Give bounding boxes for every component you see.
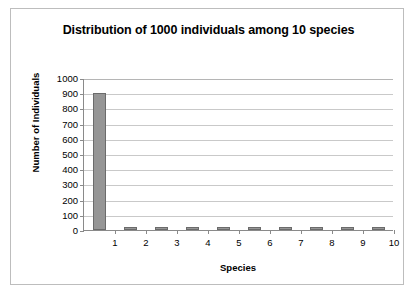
y-axis-tick-label: 200 — [44, 196, 78, 206]
y-axis-tick — [80, 109, 84, 110]
y-axis-tick-label: 0 — [44, 226, 78, 236]
x-axis-tick-label: 2 — [143, 237, 148, 248]
y-axis-tick-label: 100 — [44, 211, 78, 221]
y-axis-tick-label: 500 — [44, 150, 78, 160]
y-axis-tick-label: 900 — [44, 89, 78, 99]
gridline — [84, 155, 393, 156]
x-axis-tick — [115, 230, 116, 234]
bar — [248, 227, 262, 230]
x-axis-tick — [301, 230, 302, 234]
gridline — [84, 79, 393, 80]
x-axis-tick-label: 9 — [360, 237, 365, 248]
y-axis-tick — [80, 185, 84, 186]
y-axis-tick-label: 700 — [44, 120, 78, 130]
gridline — [84, 109, 393, 110]
y-axis-tick — [80, 201, 84, 202]
y-axis-tick-label: 1000 — [44, 74, 78, 84]
gridline — [84, 216, 393, 217]
y-axis-tick-label: 300 — [44, 180, 78, 190]
bar — [124, 227, 138, 230]
y-axis-tick — [80, 140, 84, 141]
x-axis-title: Species — [83, 262, 393, 273]
y-axis-tick — [80, 170, 84, 171]
x-axis-tick-label: 7 — [298, 237, 303, 248]
gridline — [84, 201, 393, 202]
gridline — [84, 185, 393, 186]
bar — [155, 227, 169, 230]
gridline — [84, 140, 393, 141]
y-axis-tick — [80, 125, 84, 126]
x-axis-tick — [394, 230, 395, 234]
y-axis-tick — [80, 94, 84, 95]
x-axis-tick-label: 4 — [205, 237, 210, 248]
bar — [93, 93, 107, 230]
x-axis-tick — [270, 230, 271, 234]
x-axis-tick-label: 10 — [389, 237, 400, 248]
x-axis-tick — [363, 230, 364, 234]
bar — [279, 227, 293, 230]
chart-frame: Distribution of 1000 individuals among 1… — [10, 8, 404, 285]
x-axis-tick-label: 1 — [112, 237, 117, 248]
y-axis-tick — [80, 231, 84, 232]
bar — [341, 227, 355, 230]
bar — [217, 227, 231, 230]
bar — [372, 227, 386, 230]
plot-area: 01002003004005006007008009001000 1234567… — [83, 79, 393, 231]
x-axis-tick-label: 6 — [267, 237, 272, 248]
x-axis-tick — [332, 230, 333, 234]
x-axis-tick — [177, 230, 178, 234]
gridline — [84, 125, 393, 126]
y-axis-tick-label: 400 — [44, 165, 78, 175]
y-axis-tick — [80, 216, 84, 217]
y-axis-tick — [80, 155, 84, 156]
gridline — [84, 94, 393, 95]
x-axis-tick — [146, 230, 147, 234]
x-axis-tick-label: 8 — [329, 237, 334, 248]
bar — [186, 227, 200, 230]
x-axis-tick-label: 3 — [174, 237, 179, 248]
y-axis-tick — [80, 79, 84, 80]
y-axis-tick-label: 800 — [44, 104, 78, 114]
x-axis-tick — [208, 230, 209, 234]
y-axis-title: Number of Individuals — [30, 68, 41, 178]
bar — [310, 227, 324, 230]
gridline — [84, 170, 393, 171]
x-axis-tick-label: 5 — [236, 237, 241, 248]
x-axis-tick — [239, 230, 240, 234]
y-axis-tick-label: 600 — [44, 135, 78, 145]
chart-title: Distribution of 1000 individuals among 1… — [56, 22, 361, 39]
